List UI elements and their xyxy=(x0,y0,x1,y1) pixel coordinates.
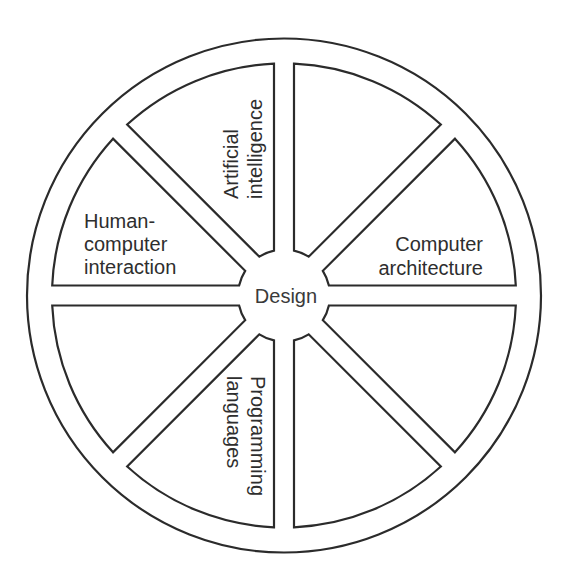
label-line: interaction xyxy=(84,256,176,278)
label-line: Artificial xyxy=(220,129,242,199)
label-line: Computer xyxy=(395,233,483,255)
label-line: languages xyxy=(223,376,245,468)
label-line: intelligence xyxy=(244,99,266,199)
hub-label-design: Design xyxy=(255,285,317,307)
label-line: Programming xyxy=(247,376,269,496)
label-line: Human- xyxy=(84,210,155,232)
label-line: computer xyxy=(84,233,168,255)
design-wheel-diagram: Design Human- computer interaction Compu… xyxy=(0,0,562,580)
label-line: architecture xyxy=(379,257,484,279)
